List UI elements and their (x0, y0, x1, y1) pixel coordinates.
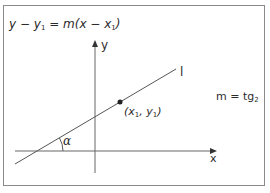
point-marker (118, 100, 123, 105)
point-slope-equation: y − y1 = m(x − x1) (9, 18, 120, 32)
slope-formula: m = tg2 (216, 91, 259, 104)
y-axis-arrow-icon (92, 40, 98, 47)
y-axis-label: y (101, 39, 108, 51)
point-label: (x1, y1) (124, 106, 162, 119)
angle-label: α (63, 135, 71, 147)
line-label: l (180, 66, 183, 78)
x-axis-label: x (210, 153, 217, 164)
